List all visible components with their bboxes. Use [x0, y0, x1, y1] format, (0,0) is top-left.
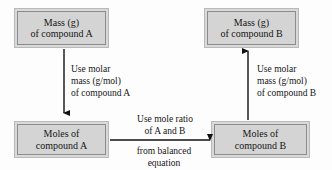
edge-label-mid-top-line2: of A and B — [119, 125, 211, 137]
edge-label-moles-ratio-bottom: from balanced equation — [117, 145, 211, 169]
edge-label-moles-ratio-top: Use mole ratio of A and B — [119, 113, 211, 137]
node-mass-a-line1: Mass (g) — [44, 17, 79, 28]
node-mass-of-compound-b[interactable]: Mass (g) of compound B — [204, 8, 299, 48]
node-moles-b-line2: compound B — [235, 140, 286, 151]
node-mass-of-compound-a[interactable]: Mass (g) of compound A — [14, 8, 109, 48]
node-mass-b-line2: of compound B — [220, 28, 282, 39]
stoichiometry-flowchart: Mass (g) of compound A Moles of compound… — [0, 0, 332, 170]
edge-label-right-line3: of compound B — [257, 87, 316, 99]
node-mass-a-line2: of compound A — [30, 28, 92, 39]
node-mass-of-compound-b-inner: Mass (g) of compound B — [207, 11, 296, 45]
node-moles-of-compound-a-inner: Moles of compound A — [17, 124, 106, 155]
node-moles-of-compound-a[interactable]: Moles of compound A — [14, 121, 109, 158]
edge-label-right-line1: Use molar — [257, 63, 316, 75]
node-moles-a-line2: compound A — [36, 140, 87, 151]
edge-label-left-line1: Use molar — [71, 63, 130, 75]
edge-label-right-line2: mass (g/mol) — [257, 75, 316, 87]
node-moles-a-line1: Moles of — [44, 128, 80, 139]
node-moles-of-compound-b[interactable]: Moles of compound B — [211, 121, 310, 158]
node-moles-b-line1: Moles of — [243, 128, 279, 139]
node-mass-of-compound-a-inner: Mass (g) of compound A — [17, 11, 106, 45]
edge-label-mass-a-to-moles-a: Use molar mass (g/mol) of compound A — [71, 63, 130, 99]
edge-label-moles-b-to-mass-b: Use molar mass (g/mol) of compound B — [257, 63, 316, 99]
edge-label-mid-bottom-line1: from balanced — [117, 145, 211, 157]
edge-label-mid-bottom-line2: equation — [117, 157, 211, 169]
edge-label-left-line2: mass (g/mol) — [71, 75, 130, 87]
node-mass-b-line1: Mass (g) — [234, 17, 269, 28]
node-moles-of-compound-b-inner: Moles of compound B — [214, 124, 307, 155]
edge-label-mid-top-line1: Use mole ratio — [119, 113, 211, 125]
edge-label-left-line3: of compound A — [71, 87, 130, 99]
